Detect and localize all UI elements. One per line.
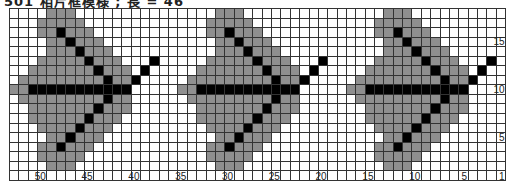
chart-cell xyxy=(263,152,272,162)
chart-cell xyxy=(207,104,216,114)
chart-cell xyxy=(253,47,262,57)
chart-cell xyxy=(281,95,290,105)
chart-cell xyxy=(94,114,103,124)
chart-cell xyxy=(150,57,159,67)
chart-cell xyxy=(487,19,496,29)
chart-cell xyxy=(366,57,375,67)
chart-cell xyxy=(188,47,197,57)
chart-cell xyxy=(412,114,421,124)
chart-cell xyxy=(422,66,431,76)
chart-cell xyxy=(10,9,19,19)
chart-cell xyxy=(300,162,309,172)
chart-cell xyxy=(469,104,478,114)
chart-cell xyxy=(384,124,393,134)
chart-cell xyxy=(104,57,113,67)
chart-cell xyxy=(431,85,440,95)
chart-cell xyxy=(66,28,75,38)
chart-cell xyxy=(310,152,319,162)
chart-cell xyxy=(235,76,244,86)
chart-cell xyxy=(113,104,122,114)
chart-cell xyxy=(10,38,19,48)
chart-cell xyxy=(338,104,347,114)
chart-cell xyxy=(94,76,103,86)
chart-cell xyxy=(319,47,328,57)
chart-cell xyxy=(207,152,216,162)
chart-cell xyxy=(160,133,169,143)
chart-cell xyxy=(431,19,440,29)
chart-cell xyxy=(29,19,38,29)
chart-cell xyxy=(122,143,131,153)
chart-cell xyxy=(66,47,75,57)
chart-cell xyxy=(394,152,403,162)
chart-cell xyxy=(375,95,384,105)
chart-cell xyxy=(122,9,131,19)
chart-cell xyxy=(394,171,403,181)
chart-cell xyxy=(141,38,150,48)
chart-cell xyxy=(76,38,85,48)
chart-cell xyxy=(225,104,234,114)
chart-cell xyxy=(450,9,459,19)
chart-cell xyxy=(253,66,262,76)
chart-cell xyxy=(160,95,169,105)
chart-cell xyxy=(197,57,206,67)
chart-cell xyxy=(441,85,450,95)
chart-cell xyxy=(263,47,272,57)
chart-cell xyxy=(422,28,431,38)
chart-cell xyxy=(375,66,384,76)
chart-cell xyxy=(10,133,19,143)
chart-cell xyxy=(431,38,440,48)
chart-cell xyxy=(319,162,328,172)
chart-cell xyxy=(328,162,337,172)
chart-cell xyxy=(356,85,365,95)
chart-cell xyxy=(347,47,356,57)
chart-cell xyxy=(300,38,309,48)
chart-cell xyxy=(394,47,403,57)
chart-cell xyxy=(403,104,412,114)
chart-cell xyxy=(366,28,375,38)
chart-cell xyxy=(132,133,141,143)
chart-cell xyxy=(29,133,38,143)
chart-cell xyxy=(347,133,356,143)
chart-cell xyxy=(450,143,459,153)
chart-cell xyxy=(47,124,56,134)
chart-cell xyxy=(178,9,187,19)
chart-cell xyxy=(113,171,122,181)
chart-cell xyxy=(263,19,272,29)
column-number-label: 45 xyxy=(82,172,93,182)
chart-cell xyxy=(469,57,478,67)
chart-cell xyxy=(347,162,356,172)
chart-cell xyxy=(188,133,197,143)
chart-cell xyxy=(113,28,122,38)
chart-cell xyxy=(141,47,150,57)
chart-cell xyxy=(347,66,356,76)
chart-cell xyxy=(29,104,38,114)
chart-cell xyxy=(76,162,85,172)
chart-cell xyxy=(150,133,159,143)
chart-cell xyxy=(113,124,122,134)
chart-cell xyxy=(225,76,234,86)
chart-cell xyxy=(272,133,281,143)
chart-cell xyxy=(47,47,56,57)
chart-cell xyxy=(216,47,225,57)
chart-cell xyxy=(225,133,234,143)
chart-cell xyxy=(188,171,197,181)
chart-cell xyxy=(197,76,206,86)
chart-cell xyxy=(328,114,337,124)
chart-cell xyxy=(113,47,122,57)
chart-cell xyxy=(384,95,393,105)
chart-cell xyxy=(104,124,113,134)
chart-cell xyxy=(253,57,262,67)
chart-cell xyxy=(122,19,131,29)
chart-cell xyxy=(347,57,356,67)
chart-cell xyxy=(375,85,384,95)
chart-cell xyxy=(113,85,122,95)
chart-cell xyxy=(422,9,431,19)
chart-cell xyxy=(29,66,38,76)
chart-cell xyxy=(235,9,244,19)
chart-cell xyxy=(169,114,178,124)
chart-cell xyxy=(66,66,75,76)
chart-cell xyxy=(19,76,28,86)
chart-cell xyxy=(291,28,300,38)
chart-cell xyxy=(244,38,253,48)
chart-cell xyxy=(487,95,496,105)
